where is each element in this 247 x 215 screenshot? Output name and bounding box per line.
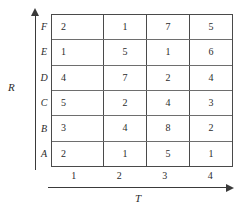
column-label-4: 4	[188, 169, 234, 183]
row-label-c: C	[38, 91, 50, 117]
table-cell: 1	[104, 15, 147, 39]
matrix-figure: R F E D C B A 2 1 7 5 1 5 1 6 4 7 2 4 5	[0, 0, 247, 215]
table-row: 2 1 7 5	[52, 15, 232, 40]
table-cell: 3	[190, 91, 232, 115]
column-label-3: 3	[142, 169, 188, 183]
table-cell: 2	[52, 15, 104, 39]
table-cell: 1	[52, 40, 104, 64]
table-cell: 1	[147, 40, 190, 64]
table-cell: 5	[52, 91, 104, 115]
row-label-a: A	[38, 142, 50, 168]
data-grid: 2 1 7 5 1 5 1 6 4 7 2 4 5 2 4 3 3 4 8 2	[51, 14, 233, 167]
table-cell: 6	[190, 40, 232, 64]
table-row: 3 4 8 2	[52, 116, 232, 141]
table-cell: 5	[190, 15, 232, 39]
table-row: 4 7 2 4	[52, 66, 232, 91]
table-cell: 4	[52, 66, 104, 90]
row-label-f: F	[38, 14, 50, 40]
table-cell: 4	[104, 116, 147, 140]
column-label-1: 1	[51, 169, 97, 183]
table-cell: 5	[104, 40, 147, 64]
table-cell: 2	[104, 91, 147, 115]
row-label-d: D	[38, 65, 50, 91]
x-axis	[48, 182, 244, 194]
column-label-2: 2	[97, 169, 143, 183]
x-axis-line	[48, 187, 228, 188]
table-row: 5 2 4 3	[52, 91, 232, 116]
table-cell: 1	[190, 142, 232, 166]
table-cell: 2	[147, 66, 190, 90]
row-label-e: E	[38, 40, 50, 66]
x-axis-label: T	[135, 193, 141, 204]
table-cell: 5	[147, 142, 190, 166]
table-row: 1 5 1 6	[52, 40, 232, 65]
table-cell: 7	[147, 15, 190, 39]
table-cell: 4	[147, 91, 190, 115]
y-axis-line	[35, 14, 36, 170]
row-label-b: B	[38, 116, 50, 142]
table-cell: 2	[52, 142, 104, 166]
x-axis-arrow-icon	[226, 184, 234, 192]
table-cell: 8	[147, 116, 190, 140]
table-row: 2 1 5 1	[52, 142, 232, 166]
table-cell: 2	[190, 116, 232, 140]
row-label-list: F E D C B A	[38, 14, 50, 167]
table-cell: 7	[104, 66, 147, 90]
table-cell: 3	[52, 116, 104, 140]
column-label-list: 1 2 3 4	[51, 169, 233, 183]
table-cell: 4	[190, 66, 232, 90]
table-cell: 1	[104, 142, 147, 166]
y-axis-label: R	[8, 82, 15, 93]
